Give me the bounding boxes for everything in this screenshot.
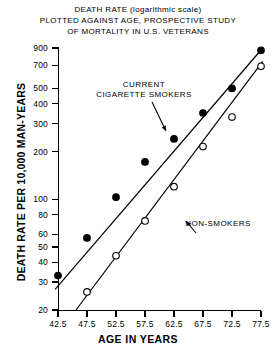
- data-point-smoker: [142, 159, 149, 166]
- chart-root: DEATH RATE (logarithmic scale) PLOTTED A…: [0, 0, 276, 353]
- data-point-smoker: [171, 136, 178, 143]
- data-point-nonsmoker: [142, 218, 149, 225]
- data-point-smoker: [55, 272, 62, 279]
- annotation-smokers-line-2: CIGARETTE SMOKERS: [84, 90, 204, 100]
- data-point-smoker: [113, 194, 120, 201]
- data-point-nonsmoker: [171, 183, 178, 190]
- data-point-smoker: [200, 110, 207, 117]
- data-point-smoker: [258, 47, 265, 54]
- data-point-nonsmoker: [113, 252, 120, 259]
- annotation-smokers-line-1: CURRENT: [84, 80, 204, 90]
- data-point-nonsmoker: [229, 114, 236, 121]
- data-point-smoker: [84, 235, 91, 242]
- annotation-nonsmokers: NON-SMOKERS: [177, 219, 259, 229]
- data-point-smoker: [229, 85, 236, 92]
- data-point-nonsmoker: [258, 63, 265, 70]
- annotation-smokers: CURRENT CIGARETTE SMOKERS: [84, 80, 204, 100]
- data-point-nonsmoker: [200, 143, 207, 150]
- data-point-nonsmoker: [84, 289, 91, 296]
- data-layer: [0, 0, 276, 353]
